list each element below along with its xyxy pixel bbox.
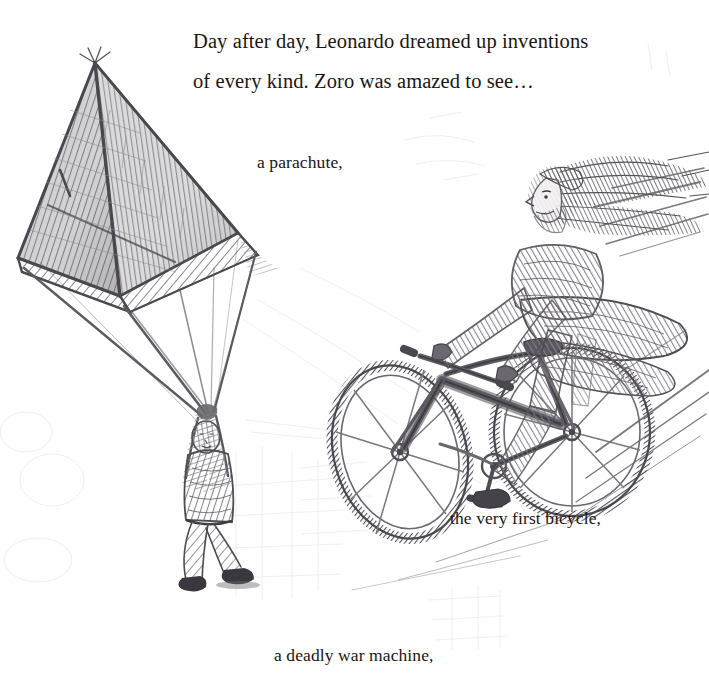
hanging-figure <box>178 404 260 591</box>
bicycle-illustration <box>0 0 709 700</box>
narration-text: Day after day, Leonardo dreamed up inven… <box>193 21 623 101</box>
parachute-illustration <box>0 0 709 700</box>
parachute-rigging-lines <box>24 240 256 420</box>
picture-book-page: Day after day, Leonardo dreamed up inven… <box>0 0 709 700</box>
label-war-machine: a deadly war machine, <box>274 645 434 666</box>
bicycle-rider <box>432 152 709 508</box>
label-parachute: a parachute, <box>257 152 343 173</box>
bicycle-frame <box>392 338 574 504</box>
narration-line-2: of every kind. Zoro was amazed to see… <box>193 61 623 101</box>
narration-line-1: Day after day, Leonardo dreamed up inven… <box>193 21 623 61</box>
background-ghost-sketches <box>0 0 709 700</box>
label-bicycle: the very first bicycle, <box>450 508 601 529</box>
bicycle-rear-wheel <box>494 348 650 516</box>
